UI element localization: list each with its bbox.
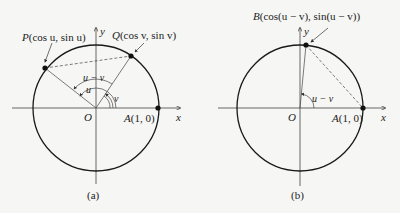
caption-b: (b) xyxy=(291,189,304,202)
radius-ob xyxy=(300,45,306,108)
figure-b: B(cos(u − v), sin(u − v)) A(1, 0) O x y … xyxy=(218,10,386,202)
point-q xyxy=(128,53,133,58)
label-q: Q(cos v, sin v) xyxy=(112,29,176,42)
label-a: A(1, 0) xyxy=(331,112,363,125)
pointer-b xyxy=(311,28,328,42)
label-angle-u-minus-v: u − v xyxy=(83,72,105,83)
label-x-axis: x xyxy=(380,111,386,123)
pointer-q xyxy=(135,43,144,52)
point-p xyxy=(42,65,47,70)
figure-a: P(cos u, sin u) Q(cos v, sin v) A(1, 0) … xyxy=(12,25,181,202)
label-y-axis: y xyxy=(99,25,105,37)
label-y-axis: y xyxy=(303,25,309,37)
label-p: P(cos u, sin u) xyxy=(21,31,86,44)
label-origin: O xyxy=(84,111,92,123)
point-a xyxy=(360,105,365,110)
caption-a: (a) xyxy=(87,189,100,202)
label-b: B(cos(u − v), sin(u − v)) xyxy=(253,10,360,23)
label-angle-v: v xyxy=(114,93,119,104)
point-b xyxy=(303,42,308,47)
label-a: A(1, 0) xyxy=(123,112,155,125)
label-angle-u-minus-v: u − v xyxy=(312,93,334,104)
label-origin: O xyxy=(288,111,296,123)
arc-v-inner xyxy=(104,96,110,108)
point-a xyxy=(155,105,160,110)
pointer-p xyxy=(45,43,52,62)
label-x-axis: x xyxy=(175,111,181,123)
diagram-canvas: P(cos u, sin u) Q(cos v, sin v) A(1, 0) … xyxy=(0,0,400,213)
label-angle-u: u xyxy=(86,84,91,95)
